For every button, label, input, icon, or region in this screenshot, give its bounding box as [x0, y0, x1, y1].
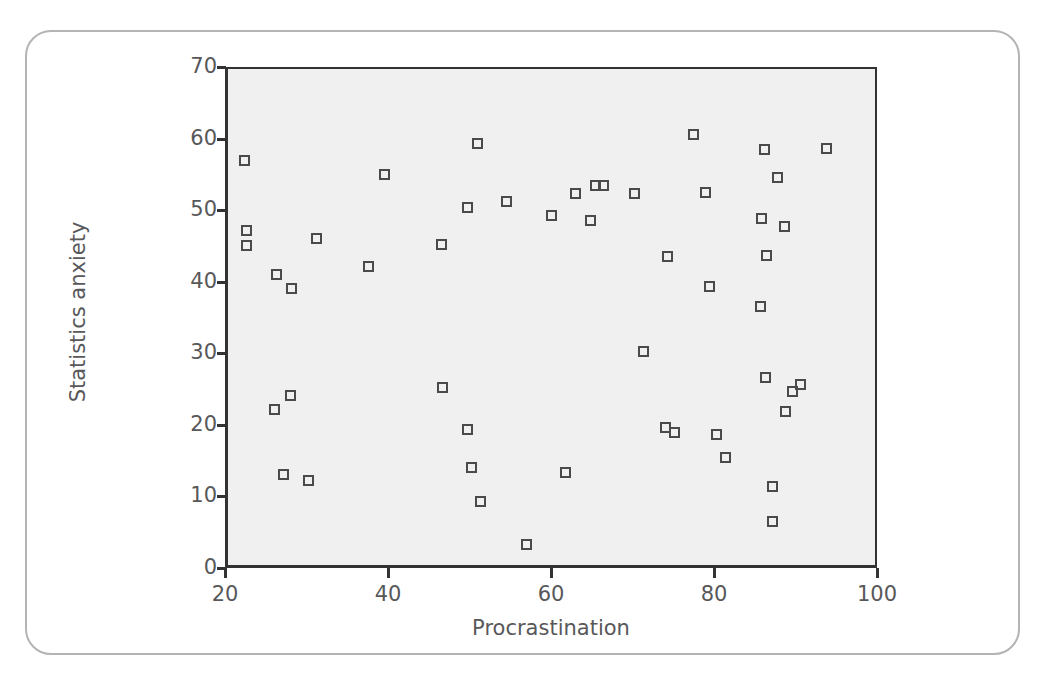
data-point — [501, 196, 512, 207]
data-point — [278, 469, 289, 480]
x-tick-label: 100 — [837, 584, 917, 605]
data-point — [560, 467, 571, 478]
data-point — [472, 138, 483, 149]
x-tick-mark — [876, 568, 879, 578]
data-point — [795, 379, 806, 390]
data-point — [700, 187, 711, 198]
data-point — [379, 169, 390, 180]
data-point — [521, 539, 532, 550]
y-tick: 30 — [155, 353, 217, 354]
x-tick-mark — [550, 568, 553, 578]
x-tick: 80 — [714, 568, 715, 569]
y-tick-label: 50 — [171, 199, 217, 220]
data-point — [598, 180, 609, 191]
x-tick-mark — [713, 568, 716, 578]
data-point — [711, 429, 722, 440]
data-point — [772, 172, 783, 183]
data-point — [311, 233, 322, 244]
y-tick-label: 0 — [171, 557, 217, 578]
data-point — [570, 188, 581, 199]
data-point — [363, 261, 374, 272]
x-tick-label: 60 — [511, 584, 591, 605]
data-point — [241, 240, 252, 251]
y-tick-label: 60 — [171, 128, 217, 149]
x-tick-label: 20 — [185, 584, 265, 605]
data-point — [303, 475, 314, 486]
data-point — [475, 496, 486, 507]
data-point — [436, 239, 447, 250]
data-point — [767, 516, 778, 527]
y-tick-label: 10 — [171, 485, 217, 506]
x-tick: 40 — [388, 568, 389, 569]
y-tick: 70 — [155, 67, 217, 68]
y-tick-label: 40 — [171, 271, 217, 292]
x-tick: 100 — [877, 568, 878, 569]
data-point — [704, 281, 715, 292]
data-point — [466, 462, 477, 473]
x-tick-mark — [387, 568, 390, 578]
data-point — [688, 129, 699, 140]
y-tick: 60 — [155, 139, 217, 140]
y-tick: 50 — [155, 210, 217, 211]
y-tick-label: 20 — [171, 414, 217, 435]
x-tick: 60 — [551, 568, 552, 569]
y-tick-mark — [217, 352, 226, 355]
data-point — [269, 404, 280, 415]
data-point — [241, 225, 252, 236]
y-tick-mark — [217, 495, 226, 498]
data-point — [720, 452, 731, 463]
y-tick-mark — [217, 66, 226, 69]
x-tick-mark — [224, 568, 227, 578]
y-tick-mark — [217, 281, 226, 284]
scatter-chart: 010203040506070 20406080100 Procrastinat… — [0, 0, 1044, 691]
data-point — [759, 144, 770, 155]
data-point — [669, 427, 680, 438]
data-point — [756, 213, 767, 224]
y-tick-mark — [217, 138, 226, 141]
data-point — [662, 251, 673, 262]
data-point — [585, 215, 596, 226]
data-point — [767, 481, 778, 492]
y-tick: 0 — [155, 568, 217, 569]
data-point — [462, 424, 473, 435]
data-point — [239, 155, 250, 166]
data-point — [437, 382, 448, 393]
data-point — [546, 210, 557, 221]
data-point — [761, 250, 772, 261]
y-tick-label: 30 — [171, 342, 217, 363]
y-tick: 40 — [155, 282, 217, 283]
data-point — [462, 202, 473, 213]
y-tick: 10 — [155, 496, 217, 497]
data-point — [821, 143, 832, 154]
y-tick-mark — [217, 424, 226, 427]
data-point — [271, 269, 282, 280]
data-point — [629, 188, 640, 199]
plot-area — [225, 67, 877, 568]
data-point — [780, 406, 791, 417]
x-axis-title: Procrastination — [225, 616, 877, 640]
data-point — [638, 346, 649, 357]
data-point — [286, 283, 297, 294]
data-point — [755, 301, 766, 312]
x-tick: 20 — [225, 568, 226, 569]
data-point — [760, 372, 771, 383]
y-axis-title: Statistics anxiety — [66, 182, 90, 442]
x-tick-label: 40 — [348, 584, 428, 605]
data-point — [779, 221, 790, 232]
x-tick-label: 80 — [674, 584, 754, 605]
y-tick: 20 — [155, 425, 217, 426]
y-tick-mark — [217, 209, 226, 212]
data-point — [285, 390, 296, 401]
y-tick-label: 70 — [171, 56, 217, 77]
